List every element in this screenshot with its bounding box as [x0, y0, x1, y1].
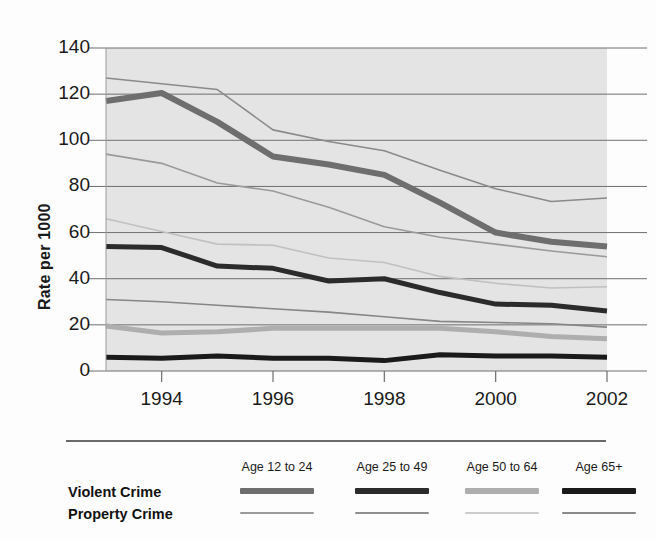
chart-figure: Rate per 1000 020406080100120140 1994199…: [0, 0, 656, 539]
x-tick-label: 2002: [572, 388, 642, 410]
legend-swatch: [465, 512, 539, 514]
legend-row-label: Property Crime: [68, 506, 173, 522]
legend-swatch: [355, 488, 429, 494]
legend-swatch: [465, 488, 539, 494]
x-tick-label: 1998: [349, 388, 419, 410]
legend-swatch: [240, 512, 314, 514]
y-tick-label: 140: [42, 36, 90, 58]
legend-swatch: [240, 488, 314, 494]
legend-swatch: [562, 488, 636, 494]
legend-swatch: [562, 512, 636, 514]
y-tick-label: 40: [42, 267, 90, 289]
legend-column-header: Age 50 to 64: [452, 460, 552, 474]
x-tick-label: 1994: [127, 388, 197, 410]
y-tick-label: 0: [42, 359, 90, 381]
y-tick-label: 20: [42, 313, 90, 335]
legend-column-header: Age 12 to 24: [227, 460, 327, 474]
y-tick-label: 120: [42, 82, 90, 104]
legend-divider: [66, 440, 606, 442]
legend-column-header: Age 25 to 49: [342, 460, 442, 474]
legend-swatch: [355, 512, 429, 514]
legend-column-header: Age 65+: [549, 460, 649, 474]
x-tick-label: 1996: [238, 388, 308, 410]
y-tick-label: 80: [42, 174, 90, 196]
y-tick-label: 100: [42, 128, 90, 150]
chart-legend: Age 12 to 24Age 25 to 49Age 50 to 64Age …: [52, 438, 612, 534]
line-chart-plot: [0, 0, 656, 440]
legend-row-label: Violent Crime: [68, 484, 161, 500]
x-tick-label: 2000: [461, 388, 531, 410]
y-tick-label: 60: [42, 221, 90, 243]
